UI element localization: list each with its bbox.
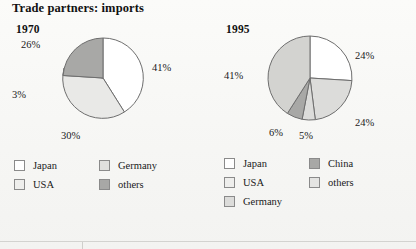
legend-label-others: others — [328, 177, 354, 188]
legend-label-others: others — [118, 179, 144, 190]
legend-item-usa-1970[interactable]: USA — [14, 175, 57, 194]
legend-item-usa-1995[interactable]: USA — [224, 173, 282, 192]
pie-label-china-1995: 6% — [269, 127, 283, 138]
legend-label-germany: Germany — [118, 160, 157, 171]
legend-swatch-japan-icon — [224, 158, 235, 169]
legend-label-usa: USA — [243, 177, 264, 188]
chart-panel-1995: 1995 24% 24% 5% 6% 41% — [214, 20, 414, 220]
pie-slice-japan-1995 — [310, 36, 352, 81]
chart-panel-1970: 1970 41% 30% 3% 26% Japan — [4, 20, 204, 220]
legend-item-germany-1995[interactable]: Germany — [224, 192, 282, 211]
legend-item-japan-1970[interactable]: Japan — [14, 156, 57, 175]
legend-label-germany: Germany — [243, 196, 282, 207]
pie-chart-1970: 41% 30% 3% 26% — [4, 34, 204, 146]
pie-label-germany-1970: 3% — [12, 89, 26, 100]
pie-label-others-1970: 26% — [21, 39, 40, 50]
legend-swatch-germany-icon — [99, 160, 110, 171]
footer-tick-mark — [82, 242, 83, 249]
pie-label-japan-1995: 24% — [355, 50, 374, 61]
figure-page: Trade partners: imports 1970 41% 30% 3% … — [0, 0, 416, 249]
legend-item-others-1970[interactable]: others — [99, 175, 157, 194]
pie-label-japan-1970: 41% — [152, 62, 171, 73]
footer-divider — [0, 241, 416, 242]
pie-chart-1995: 24% 24% 5% 6% 41% — [214, 34, 414, 146]
legend-swatch-germany-icon — [224, 196, 235, 207]
legend-item-china-1995[interactable]: China — [309, 154, 354, 173]
legend-label-japan: Japan — [243, 158, 267, 169]
legend-swatch-others-icon — [99, 179, 110, 190]
legend-swatch-china-icon — [309, 158, 320, 169]
pie-svg-1970 — [4, 34, 204, 146]
legend-label-china: China — [328, 158, 353, 169]
legend-item-germany-1970[interactable]: Germany — [99, 156, 157, 175]
pie-label-usa-1995: 41% — [224, 70, 243, 81]
pie-slice-others-1995 — [310, 78, 352, 120]
legend-column-2-1970: Germany others — [99, 156, 157, 194]
pie-label-germany-1995: 5% — [299, 130, 313, 141]
figure-title: Trade partners: imports — [12, 1, 144, 16]
pie-label-usa-1970: 30% — [61, 130, 80, 141]
legend-column-2-1995: China others — [309, 154, 354, 192]
legend-label-japan: Japan — [33, 160, 57, 171]
legend-swatch-japan-icon — [14, 160, 25, 171]
legend-item-japan-1995[interactable]: Japan — [224, 154, 282, 173]
legend-label-usa: USA — [33, 179, 54, 190]
legend-column-1-1995: Japan USA Germany — [224, 154, 282, 211]
legend-swatch-usa-icon — [224, 177, 235, 188]
pie-svg-1995 — [214, 34, 414, 146]
pie-label-others-1995: 24% — [355, 117, 374, 128]
legend-swatch-usa-icon — [14, 179, 25, 190]
legend-item-others-1995[interactable]: others — [309, 173, 354, 192]
pie-slice-others-1970 — [63, 38, 103, 78]
legend-column-1-1970: Japan USA — [14, 156, 57, 194]
legend-swatch-others-icon — [309, 177, 320, 188]
